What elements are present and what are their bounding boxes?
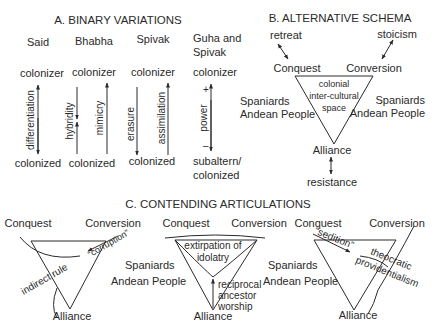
extirpation-line-2: idolatry — [197, 252, 229, 263]
power-label: power — [198, 104, 209, 132]
panel-b-title: B. ALTERNATIVE SCHEMA — [269, 12, 412, 24]
c-right-andean: Andean People — [263, 275, 338, 287]
right-andean: Andean People — [350, 107, 425, 119]
reciprocal-line-3: worship — [217, 301, 253, 312]
d3-alliance: Alliance — [339, 309, 378, 321]
hybridity-label: hybridity — [64, 102, 75, 139]
alliance-label: Alliance — [313, 144, 352, 156]
guha-label-2: Spivak — [193, 46, 227, 58]
minus-sign: – — [203, 140, 209, 151]
center-line-1: colonial — [319, 79, 350, 89]
reciprocal-line-2: ancestor — [218, 290, 257, 301]
resistance-label: resistance — [307, 176, 357, 188]
assimilation-label: assimilation — [156, 92, 167, 144]
bhabha-bottom: colonized — [69, 157, 115, 169]
spivak-top: colonizer — [131, 66, 175, 78]
stoicism-arrow — [382, 40, 393, 59]
d2-conquest: Conquest — [162, 217, 209, 229]
d3-conversion: Conversion — [369, 217, 425, 229]
corruption-label: “corruption” — [86, 228, 131, 260]
panel-c-title: C. CONTENDING ARTICULATIONS — [125, 198, 311, 210]
differentiation-label: differentiation — [25, 90, 36, 150]
retreat-arrow — [278, 44, 288, 59]
d2-conversion: Conversion — [231, 217, 287, 229]
d1-conversion: Conversion — [85, 217, 141, 229]
conquest-label: Conquest — [273, 62, 320, 74]
extirpation-line-1: extirpation of — [184, 240, 241, 251]
center-line-2: inter-cultural — [309, 91, 359, 101]
d1-alliance: Alliance — [53, 310, 92, 322]
conversion-label: Conversion — [346, 62, 402, 74]
center-line-3: space — [322, 103, 346, 113]
left-andean: Andean People — [240, 108, 315, 120]
diagram-canvas: A. BINARY VARIATIONS Said Bhabha Spivak … — [0, 0, 436, 334]
retreat-label: retreat — [270, 29, 302, 41]
said-label: Said — [27, 36, 49, 48]
c-left-andean: Andean People — [111, 275, 186, 287]
indirect-rule-label: indirect rule — [19, 261, 70, 297]
d2-curve-top — [165, 235, 265, 238]
spivak-label: Spivak — [136, 33, 170, 45]
left-spaniards: Spaniards — [240, 95, 290, 107]
said-bottom: colonized — [15, 157, 61, 169]
panel-a-title: A. BINARY VARIATIONS — [54, 14, 182, 26]
bhabha-top: colonizer — [72, 66, 116, 78]
c-right-spaniards: Spaniards — [268, 259, 318, 271]
right-spaniards: Spaniards — [375, 94, 425, 106]
stoicism-label: stoicism — [377, 28, 417, 40]
c-left-spaniards: Spaniards — [125, 259, 175, 271]
erasure-label: erasure — [125, 107, 136, 141]
spivak-bottom: colonized — [129, 155, 175, 167]
reciprocal-line-1: reciprocal — [218, 279, 261, 290]
bhabha-label: Bhabha — [75, 35, 114, 47]
guha-bottom-2: colonized — [193, 169, 239, 181]
plus-sign: + — [203, 84, 209, 95]
d1-curve-top — [20, 237, 80, 257]
guha-top: colonizer — [193, 66, 237, 78]
mimicry-label: mimicry — [94, 101, 105, 135]
d1-conquest: Conquest — [4, 217, 51, 229]
guha-label-1: Guha and — [193, 32, 241, 44]
said-top: colonizer — [20, 67, 64, 79]
guha-bottom-1: subaltern/ — [193, 155, 242, 167]
